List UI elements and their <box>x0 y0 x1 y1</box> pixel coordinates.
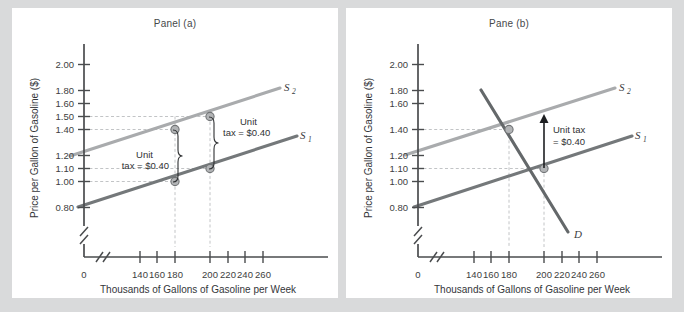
x-origin-label: 0 <box>81 269 86 280</box>
panel-b-ylabel: Price per Gallon of Gasoline ($) <box>363 78 374 218</box>
panel-a-y-break <box>80 227 88 244</box>
curve-s1 <box>78 136 297 207</box>
x-tick-200: 200 <box>202 269 218 280</box>
x-tick-240: 240 <box>237 269 253 280</box>
unit-tax-arrow <box>540 114 549 168</box>
unit-tax-left-line1: Unit <box>136 149 153 160</box>
y-tick-200: 2.00 <box>56 59 75 70</box>
curve-label-s1-sub: 1 <box>643 135 647 144</box>
x-tick-260: 260 <box>255 269 271 280</box>
curve-label-s1-sub: 1 <box>308 135 312 144</box>
figure-container: Panel (a) <box>0 0 684 312</box>
unit-tax-right-line2: tax = $0.40 <box>223 127 270 138</box>
curve-label-s1: S <box>300 129 306 141</box>
curve-label-s2-sub: 2 <box>292 87 296 96</box>
unit-tax-arrow-line1: Unit tax <box>553 124 585 135</box>
panel-b-y-break <box>414 227 422 244</box>
y-tick-180: 1.80 <box>56 85 75 96</box>
y-tick-120: 1.20 <box>390 150 409 161</box>
curve-label-s2: S <box>619 81 625 93</box>
y-tick-080: 0.80 <box>56 202 75 213</box>
unit-tax-right-line1: Unit <box>240 116 257 127</box>
panel-b-plot: Unit tax = $0.40 S 2 S 1 D <box>346 8 672 298</box>
y-tick-200: 2.00 <box>390 59 409 70</box>
y-tick-100: 1.00 <box>56 176 75 187</box>
panel-a-xlabel: Thousands of Gallons of Gasoline per Wee… <box>100 284 297 295</box>
panel-a-x-ticklabels: 0 140 160 180 200 220 240 260 <box>81 269 271 280</box>
panel-b-y-ticklabels: 2.00 1.80 1.60 1.40 1.20 1.10 1.00 0.80 <box>390 59 409 213</box>
y-tick-160: 1.60 <box>56 98 75 109</box>
x-tick-160: 160 <box>149 269 165 280</box>
x-tick-180: 180 <box>501 269 517 280</box>
panel-b-x-ticklabels: 0 140 160 180 200 220 240 260 <box>415 269 605 280</box>
y-tick-110: 1.10 <box>56 163 75 174</box>
y-tick-080: 0.80 <box>390 202 409 213</box>
y-tick-150: 1.50 <box>56 111 75 122</box>
curve-label-s2: S <box>284 81 290 93</box>
x-tick-240: 240 <box>571 269 587 280</box>
curve-label-d: D <box>573 228 582 240</box>
curve-s1 <box>414 136 632 207</box>
y-tick-120: 1.20 <box>56 150 75 161</box>
x-tick-260: 260 <box>589 269 605 280</box>
x-tick-220: 220 <box>554 269 570 280</box>
x-tick-200: 200 <box>536 269 552 280</box>
curve-label-s1: S <box>635 129 641 141</box>
panel-a-guides <box>84 117 210 248</box>
y-tick-110: 1.10 <box>390 163 409 174</box>
y-tick-100: 1.00 <box>390 176 409 187</box>
x-tick-160: 160 <box>483 269 499 280</box>
unit-tax-left-line2: tax = $0.40 <box>122 160 169 171</box>
y-tick-140: 1.40 <box>56 124 75 135</box>
x-tick-140: 140 <box>132 269 148 280</box>
x-origin-label: 0 <box>415 269 420 280</box>
panel-b-guides <box>418 130 544 248</box>
x-tick-220: 220 <box>220 269 236 280</box>
panel-a-y-ticklabels: 2.00 1.80 1.60 1.50 1.40 1.20 1.10 1.00 … <box>56 59 75 213</box>
panel-b: Pane (b) <box>346 8 672 298</box>
panel-a-plot: Unit tax = $0.40 Unit tax = $0.40 S 2 S … <box>12 8 338 298</box>
y-tick-140: 1.40 <box>390 124 409 135</box>
y-tick-160: 1.60 <box>390 98 409 109</box>
x-tick-140: 140 <box>466 269 482 280</box>
panel-a-ylabel: Price per Gallon of Gasoline ($) <box>29 78 40 218</box>
curve-label-s2-sub: 2 <box>627 87 631 96</box>
panel-a: Panel (a) <box>12 8 338 298</box>
x-tick-180: 180 <box>167 269 183 280</box>
marker-equilibrium-with-tax <box>505 125 513 133</box>
panel-b-xlabel: Thousands of Gallons of Gasoline per Wee… <box>434 284 631 295</box>
unit-tax-arrow-line2: = $0.40 <box>553 136 585 147</box>
y-tick-180: 1.80 <box>390 85 409 96</box>
